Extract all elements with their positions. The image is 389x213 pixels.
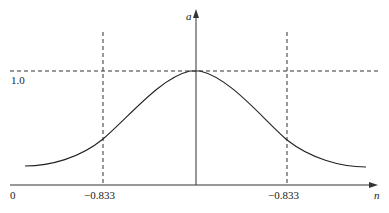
origin-label: 0: [10, 189, 16, 201]
bell-curve-chart: a n 1.0 0 −0.833 −0.833: [0, 0, 389, 213]
x-axis-arrow-icon: [369, 182, 378, 188]
tick-label-right: −0.833: [268, 189, 299, 201]
x-axis-label: n: [374, 189, 380, 201]
y-axis-label: a: [186, 10, 192, 22]
tick-label-left: −0.833: [84, 189, 115, 201]
reference-y-label: 1.0: [11, 74, 25, 86]
y-axis-arrow-icon: [193, 9, 199, 18]
